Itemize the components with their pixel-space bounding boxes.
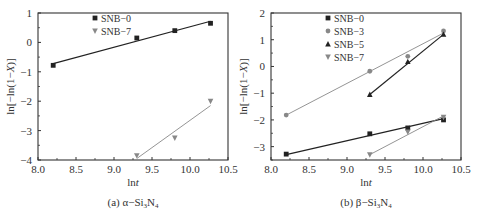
y-tick-label: −1 — [253, 87, 265, 99]
marker-square — [367, 131, 372, 136]
legend-label: SNB−5 — [334, 39, 364, 50]
y-axis-label: ln[−ln(1−X)] — [237, 58, 250, 114]
y-tick-label: −4 — [20, 154, 32, 166]
marker-triangle-down — [208, 99, 214, 104]
x-tick-label: 8.5 — [69, 163, 83, 175]
fit-line — [286, 119, 443, 155]
fit-line — [53, 21, 210, 63]
marker-triangle-down — [367, 152, 373, 157]
y-tick-label: 1 — [27, 7, 33, 19]
y-tick-label: −2 — [253, 114, 265, 126]
x-tick-label: 9.5 — [145, 163, 159, 175]
x-tick-label: 8.5 — [302, 163, 316, 175]
marker-circle — [367, 69, 372, 74]
series-snb-0 — [51, 21, 213, 68]
legend-label: SNB−0 — [101, 13, 131, 24]
x-tick-label: 10.0 — [413, 163, 433, 175]
plot-beta-si3n4: 8.08.59.09.510.010.5210−1−2−3lntln[−ln(1… — [237, 7, 471, 210]
fit-line — [286, 33, 443, 115]
series-snb-0 — [284, 118, 446, 157]
marker-square — [208, 21, 213, 26]
legend-item: SNB−7 — [92, 26, 131, 37]
legend-label: SNB−7 — [334, 52, 364, 63]
legend-label: SNB−0 — [334, 13, 364, 24]
plot-frame — [38, 13, 228, 160]
x-tick-label: 9.0 — [340, 163, 354, 175]
y-tick-label: −3 — [253, 141, 265, 153]
y-tick-label: −3 — [20, 125, 32, 137]
y-tick-label: 0 — [27, 36, 33, 48]
y-tick-label: −1 — [20, 66, 32, 78]
y-tick-label: 1 — [260, 34, 266, 46]
marker-square — [326, 16, 331, 21]
marker-circle — [405, 54, 410, 59]
legend-item: SNB−7 — [325, 52, 364, 63]
x-axis-label: lnt — [127, 176, 140, 188]
y-tick-label: −2 — [20, 95, 32, 107]
y-axis-label: ln[−ln(1−X)] — [4, 58, 17, 114]
marker-triangle-down — [172, 136, 178, 141]
series-snb-5 — [367, 31, 446, 97]
legend-item: SNB−0 — [326, 13, 364, 24]
marker-square — [284, 152, 289, 157]
x-tick-label: 10.5 — [218, 163, 238, 175]
marker-triangle-up — [325, 41, 331, 46]
x-tick-label: 8.0 — [31, 163, 45, 175]
x-tick-label: 8.0 — [264, 163, 278, 175]
marker-circle — [326, 29, 331, 34]
figure: 8.08.59.09.510.010.510−1−2−3−4lntln[−ln(… — [0, 0, 477, 215]
marker-square — [51, 63, 56, 68]
legend-item: SNB−5 — [325, 39, 364, 50]
x-tick-label: 10.0 — [180, 163, 200, 175]
legend-label: SNB−7 — [101, 26, 131, 37]
marker-triangle-down — [134, 153, 140, 158]
legend-item: SNB−0 — [93, 13, 131, 24]
series-snb-7 — [134, 99, 213, 159]
x-tick-label: 10.5 — [451, 163, 471, 175]
marker-triangle-down — [325, 55, 331, 60]
plot-frame — [271, 13, 461, 160]
marker-square — [134, 36, 139, 41]
figure-caption: (a) α−Si3N4 — [107, 196, 159, 210]
x-tick-label: 9.5 — [378, 163, 392, 175]
marker-square — [93, 16, 98, 21]
y-tick-label: 2 — [260, 7, 266, 19]
marker-circle — [284, 113, 289, 118]
legend-label: SNB−3 — [334, 26, 364, 37]
figure-caption: (b) β−Si3N4 — [340, 196, 392, 210]
series-snb-3 — [284, 29, 446, 118]
x-tick-label: 9.0 — [107, 163, 121, 175]
x-axis-label: lnt — [360, 176, 373, 188]
fit-line — [370, 34, 444, 94]
plot-alpha-si3n4: 8.08.59.09.510.010.510−1−2−3−4lntln[−ln(… — [4, 7, 238, 210]
legend-item: SNB−3 — [326, 26, 364, 37]
y-tick-label: 0 — [260, 60, 266, 72]
marker-square — [172, 28, 177, 33]
fit-line — [137, 106, 211, 159]
fit-line — [370, 116, 444, 155]
marker-triangle-down — [92, 29, 98, 34]
